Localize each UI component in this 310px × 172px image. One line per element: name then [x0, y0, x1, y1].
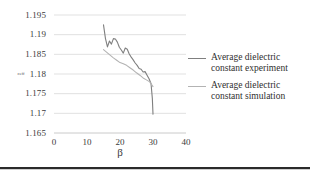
legend-label-experiment-line2: constant experiment [211, 63, 288, 73]
chart-container: 1.1651.171.1751.181.1851.191.195 0102030… [0, 0, 310, 172]
legend-line-swatch-experiment [188, 58, 206, 59]
legend-label-simulation-line1: Average dielectric [211, 80, 280, 90]
y-tick-label: 1.195 [6, 11, 46, 20]
legend-label-experiment-line1: Average dielectric [211, 52, 280, 62]
y-tick-label: 1.175 [6, 89, 46, 98]
x-axis-title: β [90, 146, 150, 158]
y-tick-label: 1.185 [6, 50, 46, 59]
series-lines [104, 25, 154, 114]
legend-label-simulation: Average dielectric constant simulation [211, 80, 285, 101]
y-tick-label: 1.17 [6, 109, 46, 118]
legend-item-experiment: Average dielectric constant experiment [188, 52, 308, 73]
legend-line-swatch-simulation [188, 86, 206, 87]
x-tick-label: 40 [174, 138, 198, 147]
page-rule-soft [0, 169, 310, 170]
series-line [104, 25, 154, 114]
chart-legend: Average dielectric constant experiment A… [188, 52, 308, 108]
legend-label-simulation-line2: constant simulation [211, 91, 285, 101]
series-line [104, 50, 154, 87]
y-tick-label: 1.19 [6, 30, 46, 39]
legend-item-simulation: Average dielectric constant simulation [188, 80, 308, 101]
x-tick-label: 0 [42, 138, 66, 147]
gridlines [54, 15, 186, 133]
y-tick-label: 1.165 [6, 129, 46, 138]
legend-label-experiment: Average dielectric constant experiment [211, 52, 288, 73]
y-axis-title: εeff [13, 71, 29, 76]
